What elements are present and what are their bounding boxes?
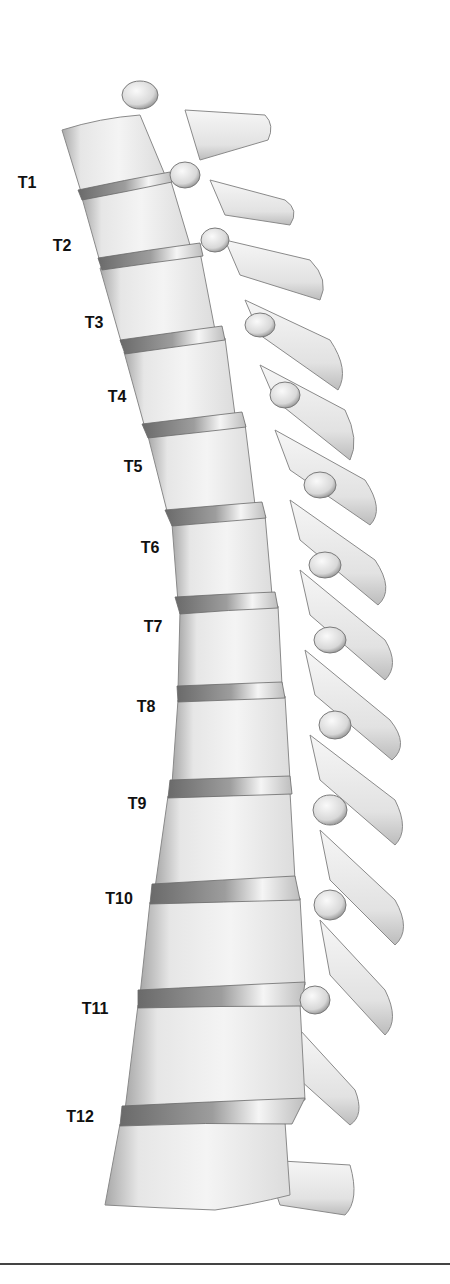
thoracic-spine-illustration — [0, 0, 450, 1284]
vertebra-label-t9: T9 — [128, 796, 147, 812]
vertebra-label-t2: T2 — [53, 238, 72, 254]
bottom-divider — [0, 1263, 450, 1265]
vertebra-label-t11: T11 — [82, 1001, 109, 1017]
vertebra-label-t5: T5 — [124, 459, 143, 475]
vertebra-label-t6: T6 — [141, 540, 160, 556]
vertebra-label-t1: T1 — [18, 175, 37, 191]
vertebra-label-t10: T10 — [105, 891, 133, 907]
vertebra-label-t12: T12 — [66, 1109, 94, 1125]
vertebra-label-t3: T3 — [85, 315, 104, 331]
vertebra-label-t4: T4 — [108, 389, 127, 405]
vertebra-label-t7: T7 — [144, 619, 163, 635]
vertebra-label-t8: T8 — [137, 699, 156, 715]
